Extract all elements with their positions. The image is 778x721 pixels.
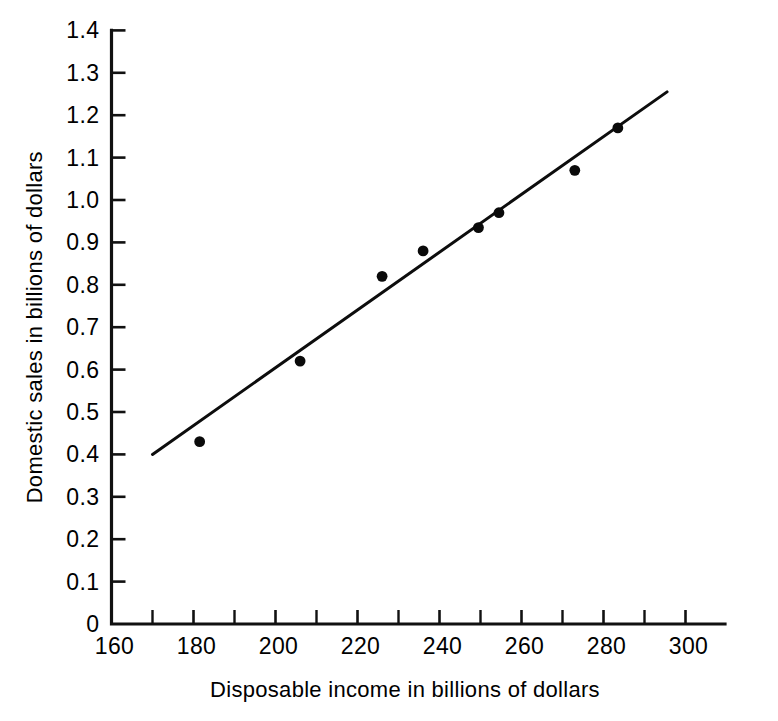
plot-canvas: 00.10.20.30.40.50.60.70.80.91.01.11.21.3… — [0, 0, 778, 721]
data-point — [569, 165, 580, 176]
data-point — [612, 123, 623, 134]
data-points — [194, 123, 623, 448]
y-tick-label: 0.4 — [66, 441, 99, 467]
x-tick-label: 280 — [587, 633, 627, 659]
y-tick-labels: 00.10.20.30.40.50.60.70.80.91.01.11.21.3… — [66, 17, 99, 637]
scatter-plot-figure: 00.10.20.30.40.50.60.70.80.91.01.11.21.3… — [0, 0, 778, 721]
y-axis-title: Domestic sales in billions of dollars — [22, 151, 47, 503]
axes — [112, 30, 726, 624]
x-tick-label: 180 — [177, 633, 217, 659]
y-tick-label: 0.6 — [66, 357, 99, 383]
data-point — [494, 207, 505, 218]
y-tick-label: 0.7 — [66, 314, 99, 340]
y-tick-label: 0.2 — [66, 526, 99, 552]
y-tick-label: 0.5 — [66, 399, 99, 425]
y-tick-label: 1.3 — [66, 60, 99, 86]
y-tick-label: 0.8 — [66, 272, 99, 298]
fit-line — [153, 92, 668, 455]
axis-lines — [112, 30, 726, 624]
regression-line — [153, 92, 668, 455]
y-tick-label: 0.9 — [66, 229, 99, 255]
x-tick-label: 240 — [423, 633, 463, 659]
data-point — [295, 356, 306, 367]
x-tick-label: 200 — [259, 633, 299, 659]
tick-marks — [112, 30, 686, 624]
data-point — [473, 222, 484, 233]
x-axis-title: Disposable income in billions of dollars — [210, 677, 600, 702]
data-point — [377, 271, 388, 282]
y-tick-label: 0.3 — [66, 484, 99, 510]
y-tick-label: 1.2 — [66, 102, 99, 128]
y-tick-label: 1.4 — [66, 17, 99, 43]
y-tick-label: 0.1 — [66, 569, 99, 595]
x-tick-label: 220 — [341, 633, 381, 659]
x-tick-labels: 160180200220240260280300 — [95, 633, 709, 659]
x-tick-label: 300 — [669, 633, 709, 659]
y-tick-label: 1.0 — [66, 187, 99, 213]
x-tick-label: 260 — [505, 633, 545, 659]
data-point — [194, 436, 205, 447]
data-point — [418, 245, 429, 256]
x-tick-label: 160 — [95, 633, 135, 659]
y-tick-label: 1.1 — [66, 145, 99, 171]
